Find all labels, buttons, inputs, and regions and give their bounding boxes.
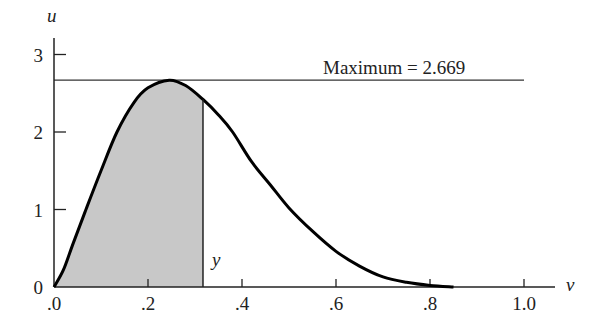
y-tick-label: 0 (34, 277, 44, 298)
x-tick-label: .2 (141, 293, 155, 314)
x-tick-label: .8 (423, 293, 437, 314)
y-tick-label: 1 (34, 200, 44, 221)
y-ticks: 0123 (34, 45, 67, 299)
x-tick-label: 1.0 (512, 293, 536, 314)
maximum-label: Maximum = 2.669 (323, 57, 465, 78)
y-tick-label: 3 (34, 45, 44, 66)
x-axis-label: v (566, 274, 575, 295)
y-tick-label: 2 (34, 122, 44, 143)
y-axis-label: u (47, 5, 57, 26)
shade-label-y: y (210, 249, 221, 270)
density-chart: .0.2.4.6.81.0 0123 u v Maximum = 2.669 y (0, 0, 602, 326)
x-tick-label: .0 (47, 293, 61, 314)
x-tick-label: .4 (235, 293, 250, 314)
x-tick-label: .6 (329, 293, 343, 314)
